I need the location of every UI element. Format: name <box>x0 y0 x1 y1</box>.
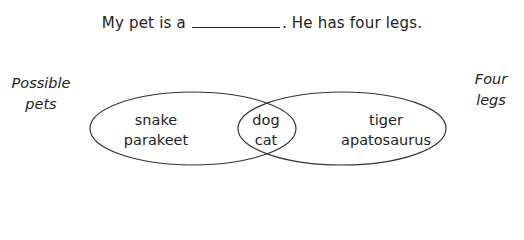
intersection-item: cat <box>240 130 292 150</box>
right-only-region: tiger apatosaurus <box>331 110 441 150</box>
intersection-item: dog <box>240 110 292 130</box>
left-only-item: parakeet <box>106 130 206 150</box>
left-only-region: snake parakeet <box>106 110 206 150</box>
intersection-region: dog cat <box>240 110 292 150</box>
right-only-item: tiger <box>331 110 441 130</box>
left-only-item: snake <box>106 110 206 130</box>
right-only-item: apatosaurus <box>331 130 441 150</box>
